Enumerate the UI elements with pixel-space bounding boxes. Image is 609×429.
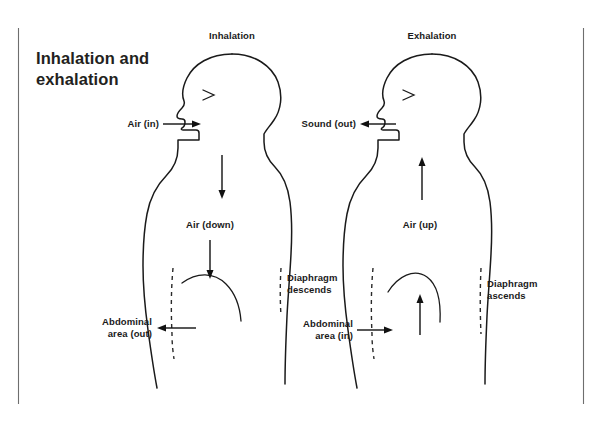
- inhalation-throat-arrow: [219, 155, 226, 199]
- exhalation-diaphragm-dashed-line: [480, 268, 481, 334]
- inhalation-diaphragm-curve: [182, 275, 241, 321]
- inhalation-back-outline: [232, 54, 292, 384]
- inhalation-heading: Inhalation: [209, 30, 255, 42]
- exhalation-mouth-label: Sound (out): [302, 118, 356, 130]
- inhalation-torso-arrow: [207, 240, 214, 279]
- inhalation-mouth-arrow: [163, 121, 201, 128]
- inhalation-abdomen-label: Abdominal area (out): [102, 316, 152, 340]
- diagram-canvas: Inhalation and exhalation Inhalation Air…: [0, 0, 609, 429]
- exhalation-throat-arrow: [419, 157, 426, 200]
- exhalation-abdomen-arrow: [357, 327, 393, 334]
- exhalation-mouth-arrow: [360, 121, 396, 128]
- exhalation-heading: Exhalation: [407, 30, 456, 42]
- page-title: Inhalation and exhalation: [36, 48, 149, 90]
- inhalation-mouth-label: Air (in): [128, 118, 159, 130]
- inhalation-abdomen-dashed-line: [171, 268, 174, 359]
- inhalation-diaphragm-dashed-line: [280, 268, 281, 316]
- exhalation-eye-icon: [403, 90, 414, 100]
- exhalation-diaphragm-label: Diaphragm ascends: [487, 278, 538, 302]
- inhalation-eye-icon: [203, 90, 214, 100]
- inhalation-diaphragm-label: Diaphragm descends: [287, 272, 338, 296]
- exhalation-diaphragm-curve: [388, 273, 440, 322]
- exhalation-torso-label: Air (up): [403, 219, 438, 231]
- exhalation-torso-arrow: [417, 294, 424, 335]
- inhalation-abdomen-arrow: [157, 325, 196, 332]
- exhalation-back-outline: [432, 54, 492, 384]
- inhalation-torso-label: Air (down): [186, 219, 234, 231]
- exhalation-abdomen-dashed-line: [371, 268, 374, 359]
- exhalation-abdomen-label: Abdominal area (in): [303, 318, 353, 342]
